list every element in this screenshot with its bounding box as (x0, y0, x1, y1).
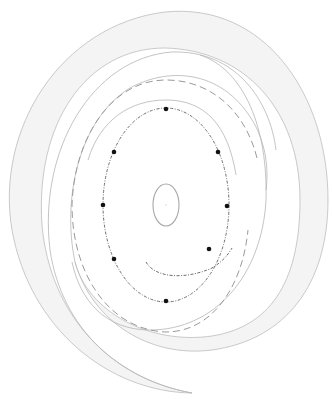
inner-arm-inner-edge (71, 76, 267, 262)
spiral-diagram (0, 0, 332, 410)
mid-arm-edge (72, 55, 266, 330)
marker-right (225, 204, 230, 209)
trailing-arc (146, 248, 232, 276)
marker-bottom (164, 299, 169, 304)
marker-upper-right (216, 150, 221, 155)
outer-spiral-band (9, 11, 328, 393)
core-center-point (165, 204, 166, 205)
marker-upper-left (112, 150, 117, 155)
inner-thin-arc (88, 100, 236, 175)
marker-left (101, 203, 106, 208)
marker-top (164, 107, 169, 112)
marker-lower-left (112, 257, 117, 262)
marker-lower-right (207, 247, 212, 252)
